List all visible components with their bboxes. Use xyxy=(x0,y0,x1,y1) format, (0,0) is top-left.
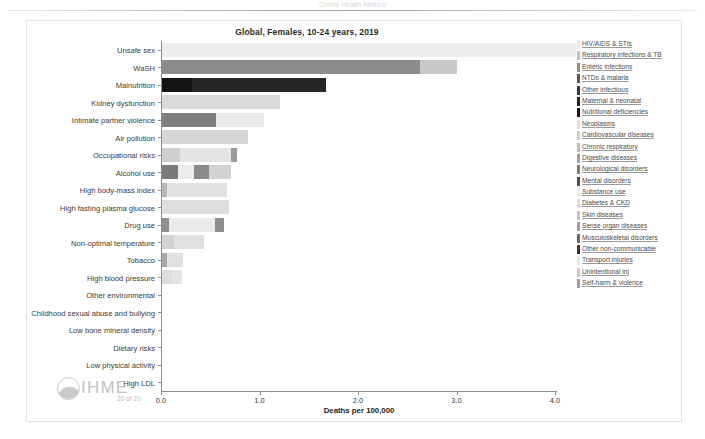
bar-segment[interactable] xyxy=(162,270,172,284)
legend-item[interactable]: Sense organ diseases xyxy=(577,221,682,232)
legend-item[interactable]: Mental disorders xyxy=(577,176,682,187)
stacked-bar[interactable] xyxy=(162,253,183,267)
legend-label[interactable]: Respiratory infections & TB xyxy=(582,50,662,60)
legend-label[interactable]: Enteric infections xyxy=(582,62,632,72)
logo-wave-shape xyxy=(57,384,80,400)
legend-label[interactable]: Digestive diseases xyxy=(582,153,637,163)
stacked-bar[interactable] xyxy=(162,165,231,179)
stacked-bar[interactable] xyxy=(162,130,248,144)
legend-item[interactable]: Self-harm & violence xyxy=(577,278,682,289)
legend-item[interactable]: Enteric infections xyxy=(577,62,682,73)
bar-segment[interactable] xyxy=(192,78,327,92)
legend-item[interactable]: Chronic respiratory xyxy=(577,142,682,153)
legend-item[interactable]: Digestive diseases xyxy=(577,153,682,164)
stacked-bar[interactable] xyxy=(162,60,458,74)
x-axis-tick xyxy=(555,392,556,395)
stacked-bar[interactable] xyxy=(162,148,237,162)
legend-label[interactable]: Neoplasms xyxy=(582,119,615,129)
stacked-bar[interactable] xyxy=(162,270,182,284)
bar-segment[interactable] xyxy=(167,253,183,267)
bar-segment[interactable] xyxy=(420,60,457,74)
legend-label[interactable]: Nutritional deficiencies xyxy=(582,107,648,117)
stacked-bar[interactable] xyxy=(162,43,576,57)
legend-item[interactable]: Substance use xyxy=(577,187,682,198)
legend-item[interactable]: Other infectious xyxy=(577,85,682,96)
legend-item[interactable]: Neurological disorders xyxy=(577,164,682,175)
bar-segment[interactable] xyxy=(167,183,227,197)
legend-item[interactable]: Neoplasms xyxy=(577,119,682,130)
legend-item[interactable]: Other non-communicable xyxy=(577,244,682,255)
bar-segment[interactable] xyxy=(162,235,174,249)
bar-segment[interactable] xyxy=(162,113,216,127)
legend-label[interactable]: Mental disorders xyxy=(582,176,631,186)
bar-segment[interactable] xyxy=(162,200,229,214)
y-axis-tick xyxy=(158,67,161,68)
legend-swatch xyxy=(577,40,580,49)
legend-label[interactable]: Other infectious xyxy=(582,85,628,95)
legend-label[interactable]: Substance use xyxy=(582,187,626,197)
legend-label[interactable]: Self-harm & violence xyxy=(582,278,643,288)
legend-swatch xyxy=(577,143,580,152)
stacked-bar[interactable] xyxy=(162,78,326,92)
x-axis-tick-label: 1.0 xyxy=(240,396,280,405)
bar-segment[interactable] xyxy=(180,148,231,162)
bar-segment[interactable] xyxy=(162,165,178,179)
bar-segment[interactable] xyxy=(209,165,231,179)
bar-segment[interactable] xyxy=(162,43,576,57)
bar-segment[interactable] xyxy=(162,78,192,92)
legend-swatch xyxy=(577,154,580,163)
stacked-bar[interactable] xyxy=(162,95,280,109)
legend-label[interactable]: Musculoskeletal disorders xyxy=(582,233,658,243)
legend-item[interactable]: Unintentional inj xyxy=(577,267,682,278)
legend-swatch xyxy=(577,234,580,243)
bar-segment[interactable] xyxy=(216,113,264,127)
bar-segment[interactable] xyxy=(162,60,420,74)
legend-item[interactable]: Nutritional deficiencies xyxy=(577,107,682,118)
legend-label[interactable]: NTDs & malaria xyxy=(582,73,629,83)
legend-item[interactable]: Cardiovascular diseases xyxy=(577,130,682,141)
legend-label[interactable]: HIV/AIDS & STIs xyxy=(582,39,632,49)
bar-segment[interactable] xyxy=(174,235,205,249)
legend-item[interactable]: Diabetes & CKD xyxy=(577,198,682,209)
legend-label[interactable]: Cardiovascular diseases xyxy=(582,130,654,140)
y-axis-tick xyxy=(158,155,161,156)
legend-label[interactable]: Other non-communicable xyxy=(582,244,656,254)
legend-label[interactable]: Maternal & neonatal xyxy=(582,96,641,106)
stacked-bar[interactable] xyxy=(162,113,264,127)
legend-item[interactable]: Transport injuries xyxy=(577,255,682,266)
stacked-bar[interactable] xyxy=(162,235,204,249)
y-axis-tick xyxy=(158,365,161,366)
bar-segment[interactable] xyxy=(169,218,215,232)
legend-item[interactable]: Musculoskeletal disorders xyxy=(577,233,682,244)
y-axis-tick xyxy=(158,312,161,313)
legend-item[interactable]: Maternal & neonatal xyxy=(577,96,682,107)
stacked-bar[interactable] xyxy=(162,183,227,197)
bar-segment[interactable] xyxy=(215,218,224,232)
legend-label[interactable]: Chronic respiratory xyxy=(582,142,638,152)
legend-label[interactable]: Diabetes & CKD xyxy=(582,198,630,208)
bar-segment[interactable] xyxy=(231,148,237,162)
legend-item[interactable]: Skin diseases xyxy=(577,210,682,221)
stacked-bar[interactable] xyxy=(162,218,224,232)
bar-segment[interactable] xyxy=(162,148,180,162)
legend-label[interactable]: Unintentional inj xyxy=(582,267,629,277)
legend-swatch xyxy=(577,256,580,265)
legend-label[interactable]: Skin diseases xyxy=(582,210,623,220)
legend-item[interactable]: NTDs & malaria xyxy=(577,73,682,84)
bar-segment[interactable] xyxy=(162,95,280,109)
screenshot-root: Global Health Metrics Global, Females, 1… xyxy=(0,0,705,439)
bar-segment[interactable] xyxy=(162,218,169,232)
x-axis-tick-label: 2.0 xyxy=(338,396,378,405)
legend-item[interactable]: Respiratory infections & TB xyxy=(577,50,682,61)
bar-segment[interactable] xyxy=(172,270,182,284)
stacked-bar[interactable] xyxy=(162,200,229,214)
y-axis-tick xyxy=(158,207,161,208)
legend-label[interactable]: Neurological disorders xyxy=(582,164,648,174)
legend-item[interactable]: HIV/AIDS & STIs xyxy=(577,39,682,50)
legend-label[interactable]: Transport injuries xyxy=(582,255,633,265)
bar-segment[interactable] xyxy=(194,165,210,179)
bar-segment[interactable] xyxy=(162,130,248,144)
legend-label[interactable]: Sense organ diseases xyxy=(582,221,647,231)
x-axis-tick xyxy=(358,392,359,395)
bar-segment[interactable] xyxy=(178,165,194,179)
